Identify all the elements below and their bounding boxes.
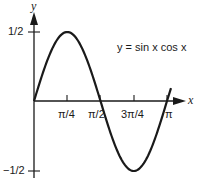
x-tick-label-pi2: π/2 (88, 109, 105, 120)
equation-annotation: y = sin x cos x (117, 42, 186, 53)
chart-canvas (0, 0, 197, 184)
y-axis-label: y (31, 0, 36, 12)
y-tick-label-top: 1/2 (8, 26, 23, 37)
y-tick-label-bottom: −1/2 (3, 165, 25, 176)
x-axis-arrow-icon (173, 97, 186, 105)
x-axis-label: x (188, 94, 193, 106)
x-tick-label-pi: π (165, 109, 173, 120)
x-tick-label-3pi4: 3π/4 (121, 109, 144, 120)
x-tick-label-pi4: π/4 (58, 109, 75, 120)
y-axis-arrow-icon (30, 12, 38, 25)
